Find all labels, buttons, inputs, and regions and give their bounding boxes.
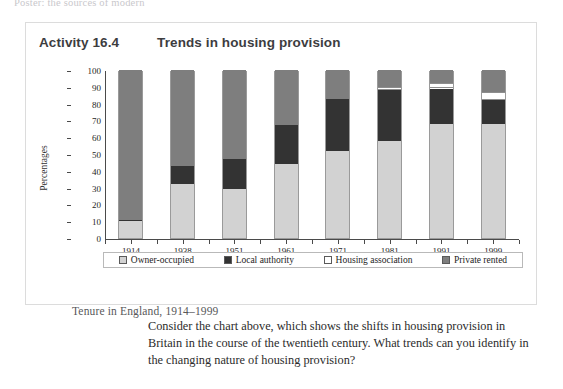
bar-slot — [209, 71, 261, 239]
bar-segment — [482, 100, 505, 124]
y-tick-label: 40 — [71, 167, 101, 177]
panel-header: Activity 16.4 Trends in housing provisio… — [39, 35, 341, 50]
bar-segment — [223, 189, 246, 238]
y-tick-mark — [67, 155, 71, 156]
legend-swatch — [324, 256, 332, 264]
x-tick-mark — [183, 240, 184, 244]
legend-label: Owner-occupied — [131, 255, 194, 265]
panel-title: Trends in housing provision — [157, 35, 340, 50]
bar-slot — [364, 71, 416, 239]
y-axis-label: Percentages — [39, 128, 49, 208]
bar-group — [105, 71, 519, 239]
y-tick-label: 20 — [71, 200, 101, 210]
y-tick-label: 60 — [71, 133, 101, 143]
y-tick-mark — [67, 88, 71, 89]
bar-segment — [275, 164, 298, 238]
bar-segment — [326, 70, 349, 99]
x-minor-tick — [416, 240, 417, 244]
y-tick-mark — [67, 138, 71, 139]
legend-label: Housing association — [336, 255, 413, 265]
page-cutoff-text: Poster: the sources of modern — [14, 0, 145, 6]
y-tick-label: 80 — [71, 100, 101, 110]
bar-segment — [223, 70, 246, 159]
bar-segment — [482, 92, 505, 100]
x-tick-mark — [234, 240, 235, 244]
y-axis-ticks: 0102030405060708090100 — [71, 71, 101, 239]
y-tick-label: 30 — [71, 184, 101, 194]
x-tick-mark — [441, 240, 442, 244]
activity-question: Consider the chart above, which shows th… — [148, 318, 533, 370]
activity-number: Activity 16.4 — [39, 35, 119, 50]
legend-item: Local authority — [224, 255, 294, 265]
x-minor-tick — [105, 240, 106, 244]
bar-segment — [171, 70, 194, 166]
bar-slot — [416, 71, 468, 239]
bar-segment — [171, 166, 194, 184]
bar-segment — [119, 220, 142, 222]
y-tick-mark — [67, 189, 71, 190]
bar-segment — [430, 89, 453, 124]
y-tick-label: 90 — [71, 83, 101, 93]
stacked-bar — [274, 71, 299, 239]
stacked-bar — [325, 71, 350, 239]
bar-segment — [223, 159, 246, 189]
stacked-bar — [481, 71, 506, 239]
y-tick-mark — [67, 205, 71, 206]
legend-swatch — [442, 256, 450, 264]
plot-area: 0102030405060708090100 19141938195119611… — [105, 71, 519, 239]
bar-slot — [157, 71, 209, 239]
y-tick-mark — [67, 71, 71, 72]
y-tick-label: 0 — [71, 234, 101, 244]
bar-segment — [378, 70, 401, 87]
stacked-bar — [118, 71, 143, 239]
legend-swatch — [224, 256, 232, 264]
bar-segment — [275, 70, 298, 125]
y-tick-label: 100 — [71, 66, 101, 76]
bar-slot — [467, 71, 519, 239]
chart-legend: Owner-occupiedLocal authorityHousing ass… — [103, 252, 523, 268]
x-tick-mark — [286, 240, 287, 244]
x-tick-mark — [131, 240, 132, 244]
y-tick-label: 10 — [71, 217, 101, 227]
x-tick-mark — [338, 240, 339, 244]
chart-caption: Tenure in England, 1914–1999 — [72, 305, 218, 317]
bar-segment — [326, 151, 349, 238]
bar-segment — [378, 90, 401, 140]
y-tick-mark — [67, 222, 71, 223]
stacked-bar — [429, 71, 454, 239]
bar-segment — [482, 124, 505, 238]
x-minor-tick — [260, 240, 261, 244]
x-tick-mark — [493, 240, 494, 244]
bar-segment — [430, 70, 453, 83]
bar-slot — [312, 71, 364, 239]
bar-segment — [378, 141, 401, 238]
x-minor-tick — [364, 240, 365, 244]
x-minor-tick — [467, 240, 468, 244]
y-tick-mark — [67, 105, 71, 106]
x-minor-tick — [312, 240, 313, 244]
y-tick-label: 50 — [71, 150, 101, 160]
bar-slot — [105, 71, 157, 239]
bar-segment — [378, 87, 401, 90]
bar-segment — [119, 70, 142, 220]
y-tick-mark — [67, 239, 71, 240]
legend-item: Private rented — [442, 255, 507, 265]
bar-segment — [482, 70, 505, 92]
legend-label: Local authority — [236, 255, 294, 265]
bar-segment — [171, 184, 194, 238]
legend-swatch — [119, 256, 127, 264]
bar-segment — [430, 83, 453, 88]
legend-item: Owner-occupied — [119, 255, 194, 265]
bar-segment — [326, 99, 349, 151]
activity-panel: Activity 16.4 Trends in housing provisio… — [25, 22, 537, 305]
x-minor-tick — [519, 240, 520, 244]
bar-segment — [119, 221, 142, 238]
stacked-bar — [377, 71, 402, 239]
x-minor-tick — [209, 240, 210, 244]
bar-slot — [260, 71, 312, 239]
y-tick-label: 70 — [71, 116, 101, 126]
legend-item: Housing association — [324, 255, 413, 265]
bar-segment — [275, 125, 298, 164]
y-tick-mark — [67, 121, 71, 122]
y-tick-mark — [67, 172, 71, 173]
